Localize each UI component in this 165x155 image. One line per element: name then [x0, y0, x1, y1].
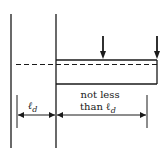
label-ld: ℓd [28, 100, 37, 114]
load-arrow-end [154, 36, 160, 59]
cantilever-beam [56, 60, 157, 84]
development-length-diagram: ℓd not less than ℓd [0, 0, 165, 155]
load-arrow-mid [100, 36, 106, 59]
label-than-ld: than ℓd [80, 101, 116, 115]
label-not-less: not less [80, 89, 119, 100]
